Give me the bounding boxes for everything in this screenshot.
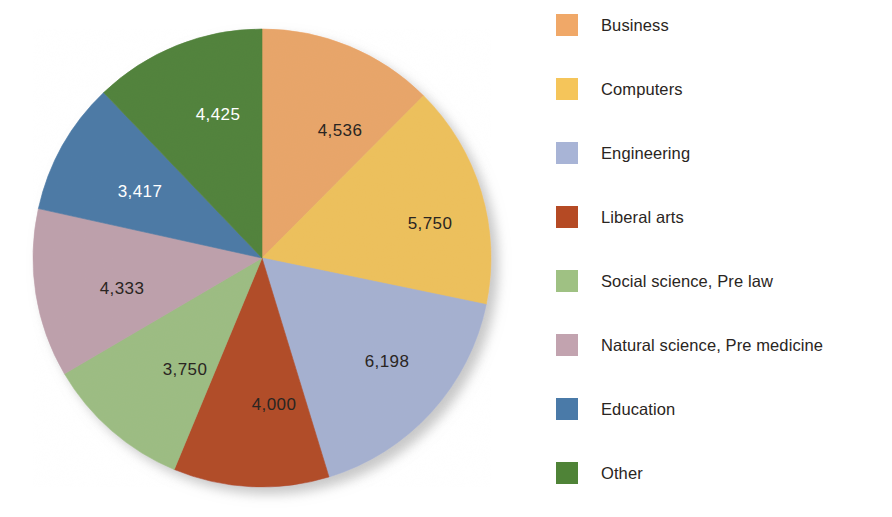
pie-svg	[22, 8, 522, 508]
chart-legend: BusinessComputersEngineeringLiberal arts…	[556, 14, 886, 484]
legend-color-swatch	[556, 334, 578, 356]
legend-color-swatch	[556, 462, 578, 484]
legend-item-label: Business	[601, 16, 669, 35]
legend-item[interactable]: Engineering	[556, 142, 886, 164]
legend-item-label: Natural science, Pre medicine	[601, 336, 823, 355]
legend-item-label: Education	[601, 400, 675, 419]
legend-color-swatch	[556, 142, 578, 164]
legend-item-label: Social science, Pre law	[601, 272, 773, 291]
legend-item-label: Engineering	[601, 144, 690, 163]
pie-plot-area: 4,5365,7506,1984,0003,7504,3333,4174,425	[22, 8, 522, 508]
legend-item-label: Computers	[601, 80, 683, 99]
legend-item[interactable]: Natural science, Pre medicine	[556, 334, 886, 356]
pie-grain-circle	[33, 29, 491, 487]
legend-item[interactable]: Liberal arts	[556, 206, 886, 228]
legend-color-swatch	[556, 398, 578, 420]
pie-chart-figure: 4,5365,7506,1984,0003,7504,3333,4174,425…	[0, 0, 892, 517]
legend-item-label: Liberal arts	[601, 208, 684, 227]
legend-color-swatch	[556, 14, 578, 36]
legend-item[interactable]: Business	[556, 14, 886, 36]
legend-item[interactable]: Education	[556, 398, 886, 420]
pie-texture-overlay	[33, 29, 491, 487]
legend-color-swatch	[556, 206, 578, 228]
legend-item[interactable]: Other	[556, 462, 886, 484]
legend-color-swatch	[556, 78, 578, 100]
legend-item[interactable]: Social science, Pre law	[556, 270, 886, 292]
legend-item[interactable]: Computers	[556, 78, 886, 100]
legend-item-label: Other	[601, 464, 643, 483]
legend-color-swatch	[556, 270, 578, 292]
